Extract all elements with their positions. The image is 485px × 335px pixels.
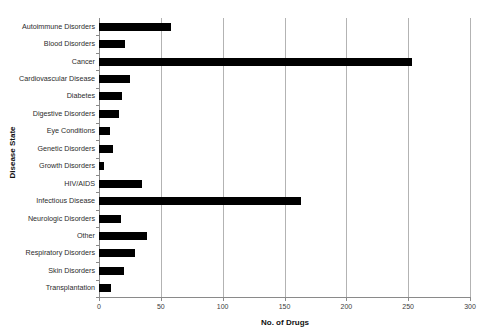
- bar-row: [99, 105, 470, 122]
- bar-chart-figure: Autoimmune DisordersBlood DisordersCance…: [0, 0, 485, 335]
- bar-row: [99, 18, 470, 35]
- x-axis-tick-label: 50: [157, 303, 165, 310]
- x-axis-tick-label: 200: [340, 303, 352, 310]
- y-axis-tick-label: Neurologic Disorders: [1, 215, 95, 223]
- y-axis-tick-label: Skin Disorders: [1, 267, 95, 275]
- x-axis-tick-label: 150: [279, 303, 291, 310]
- bar-row: [99, 192, 470, 209]
- y-axis-tick-label: Blood Disorders: [1, 40, 95, 48]
- x-axis-tick-label: 300: [464, 303, 476, 310]
- bar: [99, 267, 124, 275]
- bar: [99, 92, 122, 100]
- bar: [99, 180, 142, 188]
- bar: [99, 75, 130, 83]
- bar: [99, 162, 104, 170]
- x-axis-tick-label: 0: [97, 303, 101, 310]
- y-axis-title: Disease State: [8, 108, 17, 198]
- bar: [99, 127, 110, 135]
- bar: [99, 249, 135, 257]
- x-axis-tick: [99, 298, 100, 301]
- x-axis-tick: [470, 298, 471, 301]
- bar-row: [99, 280, 470, 297]
- y-axis-tick-label: Cardiovascular Disease: [1, 75, 95, 83]
- x-axis-tick-label: 100: [217, 303, 229, 310]
- x-axis-ticks: 050100150200250300: [99, 298, 471, 314]
- bar-row: [99, 262, 470, 279]
- y-axis-tick-label: Infectious Disease: [1, 197, 95, 205]
- bar-row: [99, 123, 470, 140]
- y-axis-tick-label: Other: [1, 232, 95, 240]
- y-axis-tick-label: Diabetes: [1, 92, 95, 100]
- bar-row: [99, 35, 470, 52]
- bar-row: [99, 140, 470, 157]
- y-axis-tick-label: Autoimmune Disorders: [1, 23, 95, 31]
- bar-row: [99, 210, 470, 227]
- x-axis-tick: [408, 298, 409, 301]
- y-axis-tick-label: Transplantation: [1, 284, 95, 292]
- x-axis-tick: [223, 298, 224, 301]
- gridline: [470, 18, 471, 297]
- bar-row: [99, 53, 470, 70]
- bar: [99, 23, 171, 31]
- bar-row: [99, 70, 470, 87]
- bar-row: [99, 245, 470, 262]
- bar: [99, 145, 113, 153]
- bar: [99, 232, 147, 240]
- x-axis-tick: [285, 298, 286, 301]
- bar: [99, 215, 121, 223]
- bar: [99, 110, 119, 118]
- y-axis-tick-label: Respiratory Disorders: [1, 249, 95, 257]
- y-axis-tick-label: Cancer: [1, 58, 95, 66]
- x-axis-tick-label: 250: [402, 303, 414, 310]
- bar-row: [99, 227, 470, 244]
- x-axis-title: No. of Drugs: [99, 318, 471, 327]
- x-axis-tick: [161, 298, 162, 301]
- plot-area: [99, 18, 470, 297]
- bar-row: [99, 158, 470, 175]
- bar: [99, 40, 125, 48]
- x-axis-tick: [346, 298, 347, 301]
- bar-row: [99, 88, 470, 105]
- bar: [99, 284, 111, 292]
- bar: [99, 197, 301, 205]
- bar-row: [99, 175, 470, 192]
- bar: [99, 58, 412, 66]
